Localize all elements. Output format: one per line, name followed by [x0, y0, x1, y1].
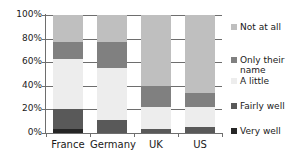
- bar-segment: [141, 15, 171, 86]
- x-axis-label-us: US: [178, 139, 222, 151]
- x-axis-tick: [222, 133, 223, 137]
- plot-area: [46, 15, 222, 133]
- legend-swatch-icon: [231, 103, 237, 109]
- y-axis-tick-label: 60%: [0, 57, 42, 66]
- bar-segment: [97, 15, 127, 42]
- legend-item-not-at-all[interactable]: Not at all: [231, 22, 301, 32]
- bar-column: [53, 15, 83, 133]
- x-axis-tick: [90, 133, 91, 137]
- legend-item-fairly-well[interactable]: Fairly well: [231, 101, 301, 111]
- y-axis-tick-label: 80%: [0, 34, 42, 43]
- legend-label: Fairly well: [240, 101, 285, 111]
- y-axis-tick-label: 20%: [0, 104, 42, 113]
- bar-stack: [53, 15, 83, 133]
- legend: Not at allOnly their nameA littleFairly …: [231, 13, 301, 143]
- bar-segment: [185, 93, 215, 107]
- bar-segment: [53, 42, 83, 59]
- bar-segment: [97, 42, 127, 68]
- bar-segment: [53, 59, 83, 110]
- x-axis-tick: [134, 133, 135, 137]
- legend-swatch-icon: [231, 57, 237, 63]
- x-axis-tick: [46, 133, 47, 137]
- legend-swatch-icon: [231, 24, 237, 30]
- legend-label: A little: [240, 76, 269, 86]
- x-axis-label-germany: Germany: [90, 139, 134, 151]
- legend-swatch-icon: [231, 78, 237, 84]
- bar-column: [141, 15, 171, 133]
- bar-segment: [97, 68, 127, 120]
- x-axis-label-uk: UK: [134, 139, 178, 151]
- y-axis-tick-label: 100%: [0, 10, 42, 19]
- bar-segment: [185, 107, 215, 127]
- bar-series-group: [46, 15, 222, 133]
- stacked-bar-chart: 0%20%40%60%80%100% FranceGermanyUKUS Not…: [0, 0, 301, 165]
- bar-segment: [97, 120, 127, 133]
- x-axis-label-france: France: [46, 139, 90, 151]
- bar-segment: [141, 107, 171, 129]
- legend-label: Very well: [240, 126, 281, 136]
- bar-segment: [185, 15, 215, 93]
- bar-stack: [141, 15, 171, 133]
- bar-stack: [97, 15, 127, 133]
- legend-item-very-well[interactable]: Very well: [231, 126, 301, 136]
- legend-label: Not at all: [240, 22, 281, 32]
- bar-segment: [141, 86, 171, 107]
- bar-stack: [185, 15, 215, 133]
- x-axis-tick: [178, 133, 179, 137]
- bar-column: [97, 15, 127, 133]
- legend-label: Only their name: [240, 55, 301, 75]
- bar-segment: [53, 109, 83, 129]
- bar-segment: [53, 15, 83, 42]
- legend-item-a-little[interactable]: A little: [231, 76, 301, 86]
- legend-item-only-their-name[interactable]: Only their name: [231, 55, 301, 75]
- legend-swatch-icon: [231, 128, 237, 134]
- bar-column: [185, 15, 215, 133]
- y-axis-tick-label: 40%: [0, 81, 42, 90]
